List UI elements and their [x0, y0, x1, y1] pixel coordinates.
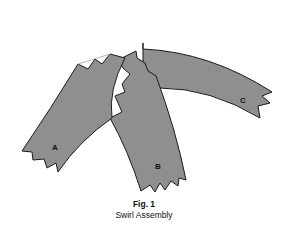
piece-a-label: A: [52, 143, 58, 152]
figure-number: Fig. 1: [0, 199, 288, 209]
piece-b-label: B: [155, 162, 161, 171]
piece-a: A: [22, 54, 125, 172]
piece-c-label: C: [240, 96, 246, 105]
swirl-assembly-diagram: C B A: [0, 0, 288, 231]
figure-title: Swirl Assembly: [0, 210, 288, 220]
